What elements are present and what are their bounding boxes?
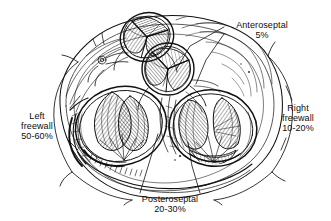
label-anteroseptal-name: Anteroseptal [222, 20, 302, 30]
label-left-freewall-line2: freewall [6, 121, 68, 131]
interventricular-septum [160, 96, 181, 161]
anatomy-figure: Anteroseptal 5% Right freewall 10-20% Le… [0, 0, 331, 221]
tricuspid-valve [163, 83, 263, 173]
mitral-valve [66, 76, 176, 176]
label-anteroseptal: Anteroseptal 5% [222, 20, 302, 40]
label-posteroseptal-name: Posteroseptal [122, 194, 218, 204]
label-left-freewall: Left freewall 50-60% [6, 111, 68, 141]
label-posteroseptal-value: 20-30% [122, 204, 218, 214]
label-anteroseptal-value: 5% [222, 30, 302, 40]
label-right-freewall-line2: freewall [268, 113, 328, 123]
label-left-freewall-value: 50-60% [6, 131, 68, 141]
label-posteroseptal: Posteroseptal 20-30% [122, 194, 218, 214]
label-right-freewall: Right freewall 10-20% [268, 103, 328, 133]
label-right-freewall-value: 10-20% [268, 123, 328, 133]
label-left-freewall-line1: Left [6, 111, 68, 121]
label-right-freewall-line1: Right [268, 103, 328, 113]
